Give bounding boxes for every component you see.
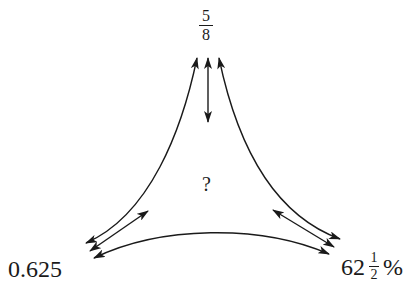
arrow-bottom-curve: [94, 233, 329, 258]
center-question-mark: ?: [202, 174, 211, 194]
percent-fraction: 1 2: [369, 251, 379, 282]
decimal-label-left: 0.625: [8, 257, 62, 281]
arrow-left-center: [90, 211, 148, 251]
fraction-numerator: 5: [199, 8, 213, 24]
percent-fraction-numerator: 1: [369, 251, 379, 265]
fraction-label-top: 5 8: [199, 8, 213, 43]
fraction-denominator: 8: [199, 27, 213, 43]
percent-sign: %: [383, 255, 403, 279]
percent-fraction-denominator: 2: [369, 268, 379, 282]
arrow-right-center: [273, 210, 334, 247]
percent-label-right: 62 1 2 %: [341, 251, 403, 282]
percent-whole: 62: [341, 255, 365, 279]
triangle-diagram: [0, 0, 414, 293]
arrow-top-right-curve: [219, 58, 340, 239]
